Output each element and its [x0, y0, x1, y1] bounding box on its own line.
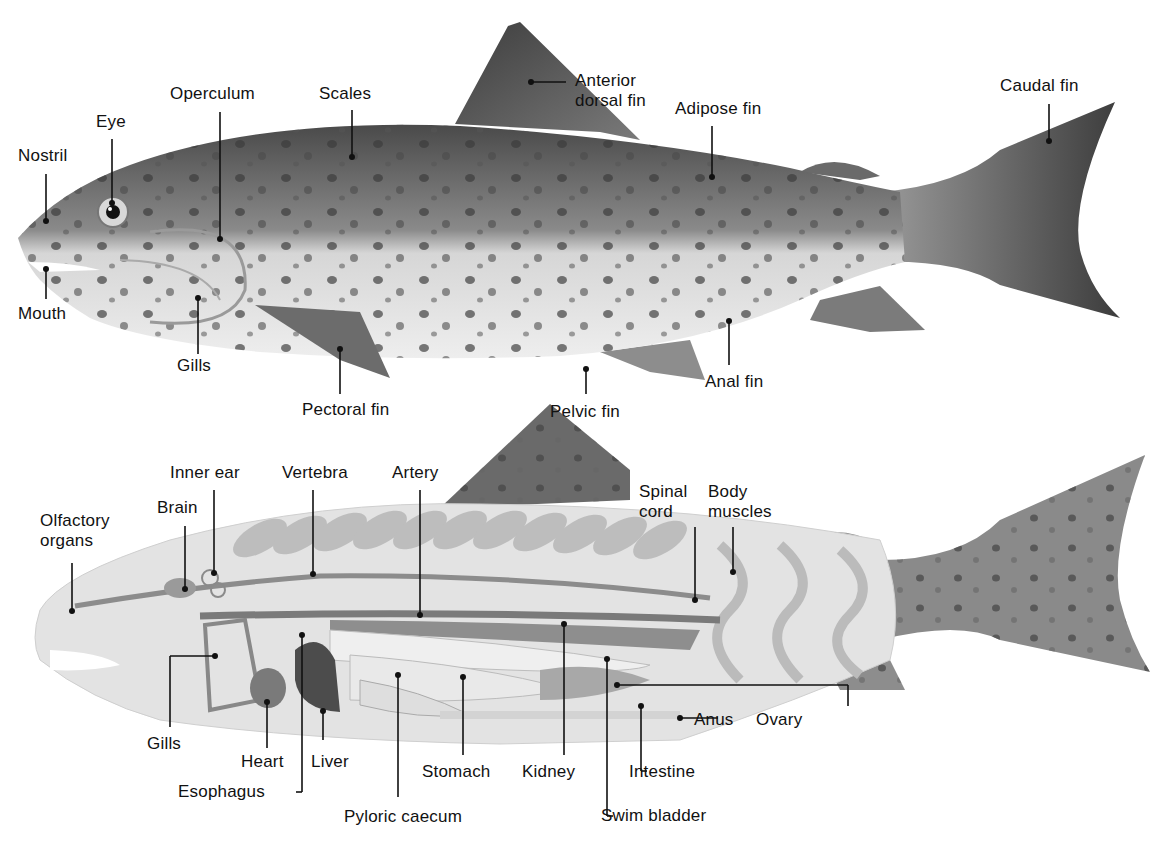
internal-fish: [35, 404, 1150, 744]
label-kidney: Kidney: [522, 762, 575, 782]
label-spinal-cord-line2: cord: [639, 502, 687, 522]
label-inner-ear: Inner ear: [170, 463, 240, 483]
label-stomach: Stomach: [422, 762, 491, 782]
label-olfactory-organs: Olfactory organs: [40, 511, 110, 551]
label-liver: Liver: [311, 752, 349, 772]
label-anus: Anus: [694, 710, 734, 730]
label-olfactory-organs-line1: Olfactory: [40, 511, 110, 531]
label-esophagus: Esophagus: [178, 782, 265, 802]
label-olfactory-organs-line2: organs: [40, 531, 110, 551]
trout-anatomy-diagram: Nostril Eye Operculum Scales Anterior do…: [0, 0, 1150, 845]
label-anterior-dorsal-fin-line2: dorsal fin: [575, 91, 646, 111]
label-anterior-dorsal-fin: Anterior dorsal fin: [575, 71, 646, 111]
label-caudal-fin: Caudal fin: [1000, 76, 1079, 96]
label-adipose-fin: Adipose fin: [675, 99, 761, 119]
label-mouth: Mouth: [18, 304, 66, 324]
caudal-fin-shape: [880, 102, 1120, 318]
label-spinal-cord: Spinal cord: [639, 482, 687, 522]
label-operculum: Operculum: [170, 84, 255, 104]
label-vertebra: Vertebra: [282, 463, 348, 483]
label-brain: Brain: [157, 498, 198, 518]
label-pyloric-caecum: Pyloric caecum: [344, 807, 462, 827]
label-nostril: Nostril: [18, 146, 68, 166]
label-body-muscles-line2: muscles: [708, 502, 772, 522]
label-heart: Heart: [241, 752, 284, 772]
label-body-muscles-line1: Body: [708, 482, 772, 502]
label-pelvic-fin: Pelvic fin: [550, 402, 620, 422]
external-fish: [18, 22, 1120, 380]
label-artery: Artery: [392, 463, 439, 483]
label-anal-fin: Anal fin: [705, 372, 763, 392]
label-gills-internal: Gills: [147, 734, 181, 754]
fish-illustrations: [0, 0, 1150, 845]
label-body-muscles: Body muscles: [708, 482, 772, 522]
label-eye: Eye: [96, 112, 126, 132]
label-swim-bladder: Swim bladder: [601, 806, 706, 826]
label-gills-external: Gills: [177, 356, 211, 376]
label-ovary: Ovary: [756, 710, 802, 730]
label-scales: Scales: [319, 84, 371, 104]
label-anterior-dorsal-fin-line1: Anterior: [575, 71, 646, 91]
label-intestine: Intestine: [629, 762, 695, 782]
label-pectoral-fin: Pectoral fin: [302, 400, 389, 420]
label-spinal-cord-line1: Spinal: [639, 482, 687, 502]
